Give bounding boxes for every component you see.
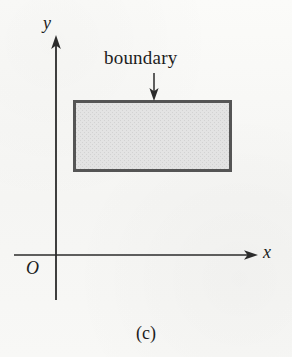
- y-axis-label: y: [43, 14, 51, 32]
- figure-panel: y x O boundary (c): [0, 0, 292, 357]
- shaded-rectangle-region: [75, 102, 231, 171]
- figure-caption: (c): [0, 323, 292, 344]
- origin-label: O: [26, 259, 39, 277]
- boundary-annotation-label: boundary: [104, 48, 177, 67]
- x-axis-label: x: [263, 243, 271, 261]
